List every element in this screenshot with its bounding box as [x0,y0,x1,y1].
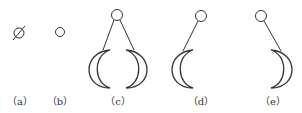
panel-e-right-crescent [256,11,293,89]
panel-d-left-crescent [172,11,207,89]
panel-b-circle-icon [56,28,65,37]
label-d: （d） [188,93,214,108]
panel-a-slashed-circle-icon [13,26,25,40]
panel-c-two-crescents [89,10,147,89]
label-b: （b） [47,93,73,108]
label-c: （c） [105,93,131,108]
label-e: （e） [260,93,286,108]
diagram-canvas [0,0,302,113]
label-a: （a） [7,93,33,108]
